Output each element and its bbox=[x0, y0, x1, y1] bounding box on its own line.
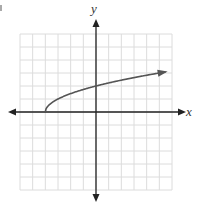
curve bbox=[45, 70, 167, 112]
graph bbox=[0, 0, 201, 203]
x-axis-label: x bbox=[186, 105, 192, 118]
y-axis-label: y bbox=[91, 2, 97, 15]
